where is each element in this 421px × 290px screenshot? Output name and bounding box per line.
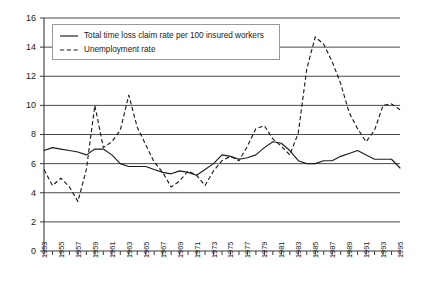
x-tick-label-1975: 1975 <box>226 242 235 258</box>
y-tick-label-6: 6 <box>31 159 36 169</box>
y-tick-label-4: 4 <box>31 188 36 198</box>
x-tick-label-1967: 1967 <box>159 242 168 258</box>
x-tick-label-1989: 1989 <box>345 242 354 258</box>
y-tick-label-2: 2 <box>31 217 36 227</box>
x-tick-label-1979: 1979 <box>260 242 269 258</box>
x-tick-labels: 1953195519571959196119631965196719691971… <box>40 242 405 258</box>
x-tick-label-1971: 1971 <box>193 242 202 258</box>
legend-label-unemployment-rate: Unemployment rate <box>84 45 155 55</box>
x-tick-label-1977: 1977 <box>243 242 252 258</box>
legend-solid-line-icon <box>60 31 78 41</box>
y-tick-label-10: 10 <box>26 100 36 110</box>
x-tick-label-1973: 1973 <box>210 242 219 258</box>
x-tick-label-1965: 1965 <box>142 242 151 258</box>
legend-label-claim-rate: Total time loss claim rate per 100 insur… <box>84 31 264 41</box>
y-tick-label-12: 12 <box>26 71 36 81</box>
x-tick-label-1995: 1995 <box>396 242 405 258</box>
x-tick-label-1985: 1985 <box>311 242 320 258</box>
legend-item-claim-rate: Total time loss claim rate per 100 insur… <box>60 29 273 43</box>
x-tick-label-1981: 1981 <box>277 242 286 258</box>
series-line-claim-rate <box>44 142 400 175</box>
legend-dashed-line-icon <box>60 45 78 55</box>
x-tick-label-1991: 1991 <box>362 242 371 258</box>
data-series <box>44 37 400 202</box>
x-tick-label-1953: 1953 <box>40 242 49 258</box>
y-tick-label-16: 16 <box>26 13 36 23</box>
x-tick-label-1959: 1959 <box>91 242 100 258</box>
y-tick-labels: 0246810121416 <box>26 13 36 256</box>
x-tick-label-1983: 1983 <box>294 242 303 258</box>
series-line-unemployment-rate <box>44 37 400 202</box>
x-tick-label-1961: 1961 <box>108 242 117 258</box>
x-tick-label-1987: 1987 <box>328 242 337 258</box>
y-tick-label-8: 8 <box>31 129 36 139</box>
x-tick-label-1955: 1955 <box>57 242 66 258</box>
y-axis <box>40 18 44 251</box>
x-tick-label-1957: 1957 <box>74 242 83 258</box>
x-tick-label-1963: 1963 <box>125 242 134 258</box>
x-tick-label-1969: 1969 <box>176 242 185 258</box>
legend-item-unemployment-rate: Unemployment rate <box>60 43 273 57</box>
y-tick-label-0: 0 <box>31 246 36 256</box>
x-tick-label-1993: 1993 <box>379 242 388 258</box>
chart-container: 0246810121416 19531955195719591961196319… <box>0 0 421 290</box>
y-tick-label-14: 14 <box>26 42 36 52</box>
chart-legend: Total time loss claim rate per 100 insur… <box>52 24 280 60</box>
